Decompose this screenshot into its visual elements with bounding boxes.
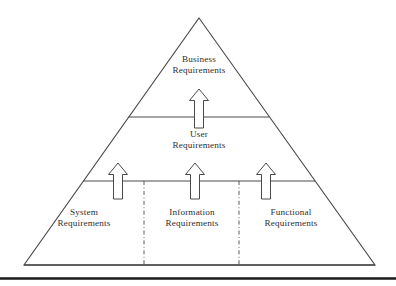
arrow-up-to-business xyxy=(190,89,209,128)
label-information-line1: Information xyxy=(166,207,219,218)
label-system-requirements: System Requirements xyxy=(58,207,111,230)
label-information-line2: Requirements xyxy=(166,218,219,229)
label-information-requirements: Information Requirements xyxy=(166,207,219,230)
label-user-line1: User xyxy=(173,129,226,140)
label-functional-line1: Functional xyxy=(265,207,318,218)
label-business-requirements: Business Requirements xyxy=(173,54,226,77)
label-user-requirements: User Requirements xyxy=(173,129,226,152)
label-system-line1: System xyxy=(58,207,111,218)
label-business-line1: Business xyxy=(173,54,226,65)
label-business-line2: Requirements xyxy=(173,65,226,76)
label-functional-line2: Requirements xyxy=(265,218,318,229)
label-system-line2: Requirements xyxy=(58,218,111,229)
label-functional-requirements: Functional Requirements xyxy=(265,207,318,230)
label-user-line2: Requirements xyxy=(173,140,226,151)
requirements-pyramid-diagram: Business Requirements User Requirements … xyxy=(0,0,396,286)
